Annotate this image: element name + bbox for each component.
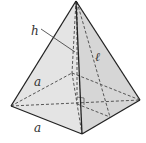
- base-side-back-label: a: [34, 75, 41, 89]
- right-face: [76, 1, 140, 134]
- base-side-front-label: a: [34, 121, 41, 135]
- slant-height-label: ℓ: [95, 50, 100, 64]
- left-face: [11, 1, 82, 134]
- height-label: h: [31, 24, 39, 38]
- pyramid-diagram: h ℓ a a: [0, 0, 146, 143]
